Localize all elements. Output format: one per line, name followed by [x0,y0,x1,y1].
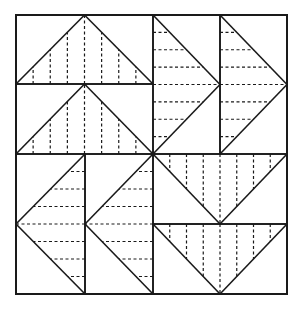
triangle-unit-top-left-1 [16,15,153,84]
triangle-edge [153,85,220,155]
triangle-unit-bottom-right-8 [153,224,287,294]
triangle-unit-bottom-left-6 [85,154,153,294]
triangle-edge [153,15,220,85]
triangle-edge [220,224,287,294]
triangle-edge [220,15,287,85]
triangle-edge [220,85,287,155]
triangle-edge [85,224,153,294]
triangle-edge [85,84,154,154]
triangle-edge [85,154,153,224]
quilt-pattern-diagram [0,0,304,321]
triangle-edge [153,224,220,294]
triangle-unit-bottom-left-5 [16,154,85,294]
triangle-unit-top-left-2 [16,84,153,154]
triangle-unit-top-right-3 [153,15,220,154]
triangle-unit-bottom-right-7 [153,154,287,224]
triangle-edge [16,84,85,154]
triangle-unit-top-right-4 [220,15,287,154]
triangle-units [16,15,287,294]
triangle-edge [16,15,85,84]
triangle-edge [153,154,220,224]
triangle-edge [220,154,287,224]
triangle-edge [85,15,154,84]
triangle-edge [16,154,85,224]
center-point [151,152,155,156]
triangle-edge [16,224,85,294]
